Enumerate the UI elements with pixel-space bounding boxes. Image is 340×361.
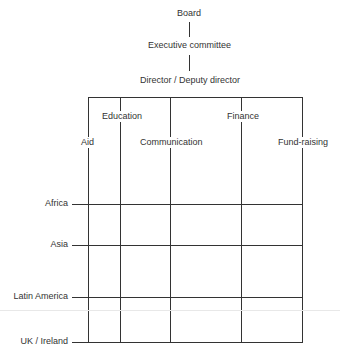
connector-exec-director [189, 55, 190, 71]
faint-divider [0, 310, 340, 311]
region-line-asia [72, 245, 303, 246]
dept-label-education: Education [101, 111, 143, 122]
region-label-latin-america: Latin America [13, 291, 68, 302]
dept-label-aid: Aid [80, 137, 95, 148]
dept-line-communication [170, 97, 171, 343]
dept-line-education [120, 97, 121, 343]
dept-label-fundraising: Fund-raising [277, 137, 329, 148]
dept-line-finance [241, 97, 242, 343]
dept-label-finance: Finance [226, 111, 260, 122]
region-line-uk-ireland [72, 342, 303, 343]
executive-committee-node: Executive committee [148, 40, 231, 51]
region-label-asia: Asia [50, 239, 68, 250]
region-label-africa: Africa [45, 198, 68, 209]
board-node: Board [177, 8, 201, 19]
director-node: Director / Deputy director [140, 75, 240, 86]
dept-label-communication: Communication [139, 137, 204, 148]
region-line-latin-america [72, 297, 303, 298]
connector-board-exec [189, 22, 190, 37]
region-label-uk-ireland: UK / Ireland [20, 336, 68, 347]
dept-line-fundraising [302, 97, 303, 343]
dept-line-aid [88, 97, 89, 343]
region-line-africa [72, 204, 303, 205]
